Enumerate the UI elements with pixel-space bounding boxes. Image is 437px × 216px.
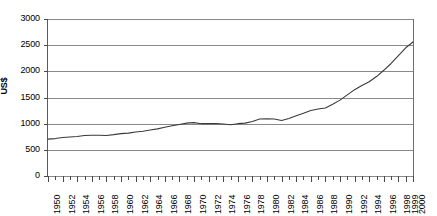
x-tick-label: 1972 [213, 195, 223, 214]
x-tick-mark [48, 176, 49, 182]
x-tick-mark [318, 176, 319, 180]
y-tick-label: 2000 [6, 66, 40, 75]
y-tick-mark [44, 98, 48, 99]
plot-area [48, 19, 413, 176]
y-tick-mark [44, 71, 48, 72]
x-tick-mark [121, 176, 122, 182]
x-tick-mark [55, 176, 56, 180]
x-tick-mark [201, 176, 202, 180]
x-tick-mark [165, 176, 166, 182]
x-tick-mark [143, 176, 144, 180]
x-tick-mark [77, 176, 78, 182]
x-tick-label: 1950 [52, 195, 62, 214]
y-tick-label: 2500 [6, 40, 40, 49]
series-line-us-dollars [48, 19, 413, 176]
x-tick-mark [216, 176, 217, 180]
x-tick-label: 2000 [417, 195, 427, 214]
y-tick-label: 0 [6, 171, 40, 180]
y-tick-mark [44, 45, 48, 46]
x-tick-mark [355, 176, 356, 182]
line-chart: US$ 195019521954195619581960196219641966… [0, 0, 437, 216]
x-axis-ticks [48, 176, 414, 182]
x-tick-label: 1990 [344, 195, 354, 214]
x-tick-label: 1958 [110, 195, 120, 214]
x-tick-label: 1994 [373, 195, 383, 214]
x-tick-mark [369, 176, 370, 182]
x-tick-label: 1964 [154, 195, 164, 214]
x-tick-mark [245, 176, 246, 180]
x-tick-mark [311, 176, 312, 182]
y-tick-label: 1000 [6, 119, 40, 128]
x-tick-label: 1986 [315, 195, 325, 214]
x-axis-labels: 1950195219541956195819601962196419661968… [48, 183, 418, 216]
x-tick-mark [136, 176, 137, 182]
x-tick-mark [296, 176, 297, 182]
x-tick-mark [209, 176, 210, 182]
x-tick-mark [92, 176, 93, 182]
x-tick-label: 1954 [81, 195, 91, 214]
x-tick-label: 1996 [388, 195, 398, 214]
x-tick-mark [289, 176, 290, 180]
x-tick-mark [406, 176, 407, 182]
x-tick-mark [128, 176, 129, 180]
x-tick-label: 1952 [67, 195, 77, 214]
x-tick-mark [252, 176, 253, 182]
x-tick-label: 1982 [286, 195, 296, 214]
x-tick-mark [114, 176, 115, 180]
x-tick-mark [362, 176, 363, 180]
x-tick-mark [223, 176, 224, 182]
x-tick-label: 1978 [256, 195, 266, 214]
y-tick-mark [44, 150, 48, 151]
x-tick-mark [340, 176, 341, 182]
x-tick-mark [333, 176, 334, 180]
x-tick-mark [238, 176, 239, 182]
x-tick-label: 1976 [242, 195, 252, 214]
x-tick-label: 1980 [271, 195, 281, 214]
x-tick-label: 1962 [140, 195, 150, 214]
x-tick-mark [303, 176, 304, 180]
y-tick-label: 1500 [6, 93, 40, 102]
y-tick-label: 500 [6, 145, 40, 154]
x-tick-mark [63, 176, 64, 182]
x-tick-label: 1966 [169, 195, 179, 214]
x-tick-label: 1984 [300, 195, 310, 214]
x-tick-label: 1970 [198, 195, 208, 214]
x-tick-label: 1960 [125, 195, 135, 214]
x-tick-mark [391, 176, 392, 180]
x-tick-mark [158, 176, 159, 180]
x-tick-mark [274, 176, 275, 180]
x-tick-mark [85, 176, 86, 180]
x-tick-mark [260, 176, 261, 180]
x-tick-label: 1968 [183, 195, 193, 214]
x-tick-mark [413, 176, 414, 182]
x-tick-mark [267, 176, 268, 182]
x-tick-mark [106, 176, 107, 182]
x-tick-mark [172, 176, 173, 180]
x-tick-mark [384, 176, 385, 182]
x-tick-mark [194, 176, 195, 182]
y-tick-mark [44, 124, 48, 125]
x-tick-mark [347, 176, 348, 180]
x-tick-mark [187, 176, 188, 180]
x-tick-mark [150, 176, 151, 182]
x-tick-mark [377, 176, 378, 180]
x-tick-label: 1974 [227, 195, 237, 214]
x-tick-label: 1956 [96, 195, 106, 214]
x-tick-label: 1988 [329, 195, 339, 214]
x-tick-mark [231, 176, 232, 180]
x-tick-mark [325, 176, 326, 182]
x-tick-mark [179, 176, 180, 182]
x-tick-label: 1992 [359, 195, 369, 214]
x-tick-mark [398, 176, 399, 182]
x-tick-mark [282, 176, 283, 182]
y-tick-mark [44, 19, 48, 20]
y-tick-label: 3000 [6, 14, 40, 23]
x-tick-mark [70, 176, 71, 180]
x-tick-mark [99, 176, 100, 180]
y-tick-mark [44, 176, 48, 177]
